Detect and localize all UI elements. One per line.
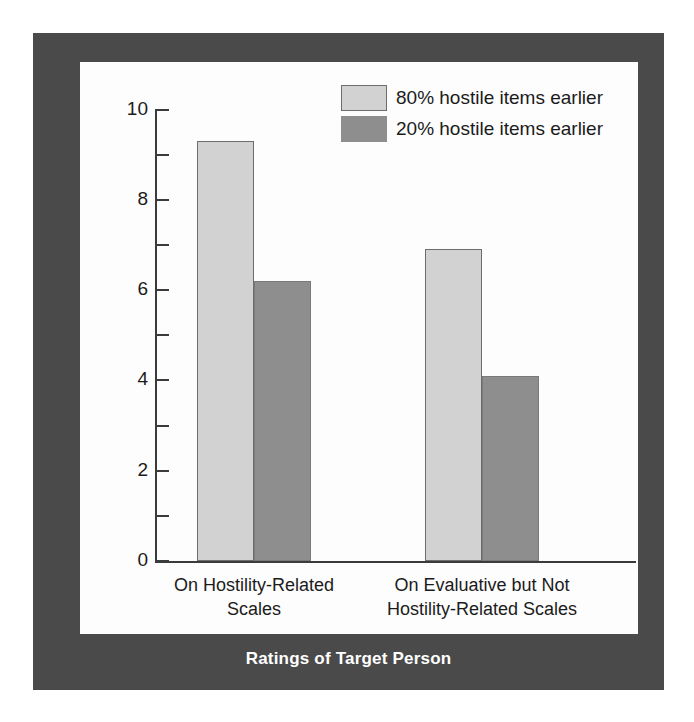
y-tick-7: [157, 244, 169, 246]
y-tick-label-8: 8: [88, 188, 148, 210]
y-tick-1: [157, 515, 169, 517]
y-tick-10: [157, 109, 169, 111]
y-tick-4: [157, 379, 169, 381]
legend-swatch-80pct: [341, 85, 387, 111]
y-tick-label-2: 2: [88, 459, 148, 481]
x-axis-title: Ratings of Target Person: [33, 649, 664, 669]
legend-label-80pct: 80% hostile items earlier: [396, 87, 603, 109]
x-axis-line: [155, 561, 636, 563]
y-tick-2: [157, 470, 169, 472]
category-label-2: On Evaluative but Not Hostility-Related …: [352, 574, 612, 622]
legend-swatch-20pct: [341, 116, 387, 142]
bar-evaluative-20pct[interactable]: [482, 376, 539, 561]
category-label-2-line2: Hostility-Related Scales: [352, 598, 612, 622]
plot-panel: 0 2 4 6 8 10 On Hostility-Related Scales…: [80, 62, 638, 634]
legend-label-20pct: 20% hostile items earlier: [396, 118, 603, 140]
y-tick-0: [157, 560, 169, 562]
y-tick-label-4: 4: [88, 368, 148, 390]
y-tick-8: [157, 199, 169, 201]
category-label-1-line1: On Hostility-Related: [124, 574, 384, 598]
y-tick-label-0: 0: [88, 549, 148, 571]
figure-container: Negativity Ratings of Target Person 0 2 …: [0, 0, 694, 722]
legend-item-80pct[interactable]: 80% hostile items earlier: [341, 83, 603, 113]
y-tick-label-10: 10: [88, 98, 148, 120]
y-tick-9: [157, 154, 169, 156]
category-label-1-line2: Scales: [124, 598, 384, 622]
y-tick-3: [157, 425, 169, 427]
category-label-1: On Hostility-Related Scales: [124, 574, 384, 622]
y-tick-5: [157, 334, 169, 336]
category-label-2-line1: On Evaluative but Not: [352, 574, 612, 598]
y-tick-label-6: 6: [88, 278, 148, 300]
legend-item-20pct[interactable]: 20% hostile items earlier: [341, 114, 603, 144]
bar-hostility-80pct[interactable]: [197, 141, 254, 561]
bar-evaluative-80pct[interactable]: [425, 249, 482, 561]
chart-legend: 80% hostile items earlier 20% hostile it…: [341, 83, 603, 145]
y-tick-6: [157, 289, 169, 291]
bar-hostility-20pct[interactable]: [254, 281, 311, 561]
